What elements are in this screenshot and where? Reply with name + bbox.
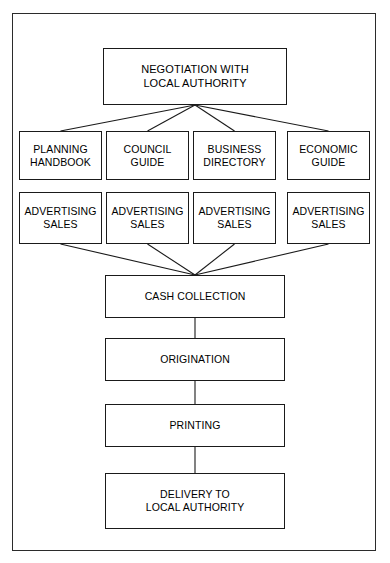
node-delivery-to-local-authority: DELIVERY TO LOCAL AUTHORITY — [105, 473, 285, 529]
node-label: CASH COLLECTION — [143, 290, 248, 303]
node-advertising-sales-3: ADVERTISING SALES — [193, 192, 276, 244]
node-advertising-sales-2: ADVERTISING SALES — [106, 192, 189, 244]
node-label: ADVERTISING SALES — [22, 205, 98, 231]
flow-diagram: NEGOTIATION WITH LOCAL AUTHORITY PLANNIN… — [0, 0, 390, 563]
node-negotiation-with-local-authority: NEGOTIATION WITH LOCAL AUTHORITY — [103, 48, 287, 105]
node-origination: ORIGINATION — [105, 338, 285, 381]
node-advertising-sales-4: ADVERTISING SALES — [287, 192, 370, 244]
node-label: PLANNING HANDBOOK — [28, 143, 93, 169]
node-printing: PRINTING — [105, 404, 285, 447]
node-label: DELIVERY TO LOCAL AUTHORITY — [144, 488, 247, 514]
node-planning-handbook: PLANNING HANDBOOK — [19, 131, 102, 180]
node-label: ADVERTISING SALES — [109, 205, 185, 231]
node-economic-guide: ECONOMIC GUIDE — [287, 131, 370, 180]
node-cash-collection: CASH COLLECTION — [105, 275, 285, 318]
node-label: BUSINESS DIRECTORY — [201, 143, 267, 169]
node-council-guide: COUNCIL GUIDE — [106, 131, 189, 180]
node-business-directory: BUSINESS DIRECTORY — [193, 131, 276, 180]
node-label: PRINTING — [168, 419, 223, 432]
node-label: ADVERTISING SALES — [196, 205, 272, 231]
node-label: COUNCIL GUIDE — [122, 143, 174, 169]
node-label: ECONOMIC GUIDE — [297, 143, 360, 169]
node-label: ADVERTISING SALES — [290, 205, 366, 231]
node-label: NEGOTIATION WITH LOCAL AUTHORITY — [139, 63, 251, 90]
node-label: ORIGINATION — [158, 353, 232, 366]
node-advertising-sales-1: ADVERTISING SALES — [19, 192, 102, 244]
